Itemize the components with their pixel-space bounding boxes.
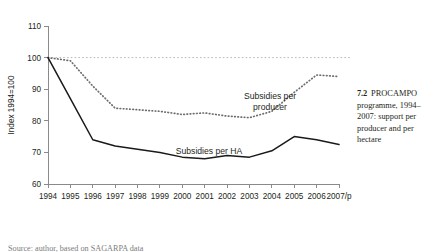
x-tick-label: 2000 — [173, 192, 192, 201]
x-tick-label: 2003 — [240, 192, 259, 201]
x-tick-label: 2007/p — [326, 192, 351, 201]
x-tick-label: 1997 — [106, 192, 125, 201]
x-tick-label: 1996 — [84, 192, 103, 201]
y-axis-ticks: 60708090100110 — [27, 22, 48, 189]
x-tick-label: 2004 — [263, 192, 282, 201]
figure-caption: 7.2 PROCAMPO programme, 1994–2007: suppo… — [357, 88, 437, 146]
x-tick-label: 2005 — [285, 192, 304, 201]
series-annotation-2: Subsidies per HA — [176, 146, 243, 156]
series-group — [48, 58, 339, 159]
y-tick-label: 110 — [28, 22, 41, 31]
x-tick-label: 1999 — [151, 192, 170, 201]
caption-number: 7.2 — [357, 89, 367, 98]
y-tick-label: 80 — [32, 117, 42, 126]
x-tick-label: 1998 — [128, 192, 147, 201]
series-line-0 — [48, 58, 339, 118]
x-tick-label: 2006 — [308, 192, 327, 201]
x-axis-ticks: 1994199519961997199819992000200120022003… — [39, 184, 352, 201]
chart-plot-area: 60708090100110 1994199519961997199819992… — [0, 0, 352, 238]
y-tick-label: 100 — [27, 54, 41, 63]
x-tick-label: 2001 — [196, 192, 215, 201]
figure-procampo-support: 60708090100110 1994199519961997199819992… — [0, 0, 440, 252]
footer-source-line: Source: author, based on SAGARPA data — [8, 244, 308, 252]
x-tick-label: 1995 — [61, 192, 80, 201]
y-tick-label: 70 — [32, 148, 42, 157]
series-annotation-1: producer — [253, 102, 287, 112]
x-tick-label: 1994 — [39, 192, 58, 201]
y-axis-title: Index 1994=100 — [7, 75, 16, 134]
series-line-1 — [48, 58, 339, 159]
line-chart: 60708090100110 1994199519961997199819992… — [0, 0, 352, 238]
x-tick-label: 2002 — [218, 192, 237, 201]
series-annotation-0: Subsidies per — [244, 91, 296, 101]
y-tick-label: 90 — [32, 85, 42, 94]
y-tick-label: 60 — [32, 180, 42, 189]
